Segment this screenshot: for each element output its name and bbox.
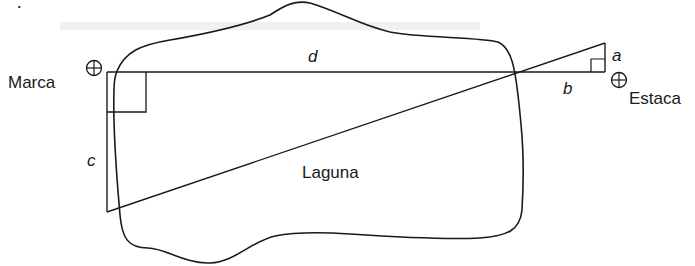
right-angle-mark-right — [591, 59, 605, 72]
label-b: b — [563, 79, 572, 98]
circled-plus-icon — [87, 61, 102, 76]
diagram-canvas: espuesta Marca Estaca Lagu — [0, 0, 695, 266]
estaca-label: Estaca — [629, 89, 682, 108]
label-c: c — [87, 151, 96, 170]
lagoon-outline — [114, 2, 523, 263]
diagonal-line — [107, 43, 605, 212]
circled-plus-icon — [612, 73, 627, 88]
lagoon-triangulation-figure: espuesta Marca Estaca Lagu — [0, 0, 695, 266]
crop-mask — [0, 0, 695, 6]
label-a: a — [612, 46, 621, 65]
right-angle-mark-left — [107, 72, 146, 112]
ghosted-text-line — [60, 22, 480, 30]
marca-label: Marca — [8, 73, 56, 92]
laguna-label: Laguna — [302, 163, 359, 182]
label-d: d — [308, 47, 318, 66]
